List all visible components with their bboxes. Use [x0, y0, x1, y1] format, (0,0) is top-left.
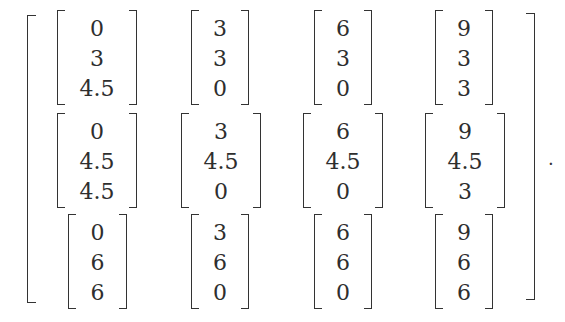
right-bracket [497, 113, 505, 208]
vector-entry: 6 [336, 248, 350, 278]
right-bracket [253, 113, 261, 208]
vector-entry: 6 [457, 248, 471, 278]
vector-entry: 3 [214, 117, 228, 147]
column-vector-r3c1: 0 6 6 [68, 214, 127, 309]
column-vector-r2c3: 6 4.5 0 [303, 113, 383, 208]
vector-entry: 4.5 [326, 147, 361, 177]
right-bracket [119, 214, 127, 309]
right-bracket [129, 10, 137, 105]
right-bracket [375, 113, 383, 208]
vector-entry: 4.5 [80, 147, 115, 177]
vector-entry: 6 [457, 278, 471, 308]
column-vector-r1c2: 3 3 0 [191, 10, 249, 105]
right-bracket [364, 10, 372, 105]
vector-entry: 0 [90, 117, 104, 147]
vector-entry: 4.5 [204, 147, 239, 177]
vector-entry: 3 [213, 218, 227, 248]
right-bracket [129, 113, 137, 208]
right-bracket [485, 214, 493, 309]
vector-entry: 3 [336, 44, 350, 74]
vector-entry: 4.5 [80, 177, 115, 207]
vector-entry: 0 [214, 177, 228, 207]
vector-entry: 0 [336, 278, 350, 308]
column-vector-r1c3: 6 3 0 [314, 10, 372, 105]
vector-entry: 9 [457, 14, 471, 44]
vector-entry: 0 [336, 177, 350, 207]
vector-entry: 6 [213, 248, 227, 278]
column-vector-r2c2: 3 4.5 0 [181, 113, 261, 208]
vector-entry: 0 [90, 14, 104, 44]
vector-entry: 6 [91, 278, 105, 308]
vector-entry: 3 [458, 177, 472, 207]
column-vector-r1c1: 0 3 4.5 [57, 10, 137, 105]
vector-entry: 3 [457, 44, 471, 74]
column-vector-r2c4: 9 4.5 3 [425, 113, 505, 208]
vector-entry: 6 [336, 117, 350, 147]
vector-entry: 0 [336, 74, 350, 104]
vector-entry: 0 [213, 278, 227, 308]
vector-entry: 3 [90, 44, 104, 74]
right-bracket [364, 214, 372, 309]
vector-entry: 0 [91, 218, 105, 248]
vector-entry: 9 [457, 218, 471, 248]
right-bracket [241, 214, 249, 309]
column-vector-r3c2: 3 6 0 [191, 214, 249, 309]
column-vector-r3c4: 9 6 6 [435, 214, 493, 309]
outer-left-bracket [27, 15, 36, 303]
vector-entry: 4.5 [448, 147, 483, 177]
vector-entry: 3 [457, 74, 471, 104]
vector-entry: 3 [213, 14, 227, 44]
vector-entry: 4.5 [80, 74, 115, 104]
trailing-period: . [548, 148, 554, 169]
vector-entry: 6 [336, 218, 350, 248]
column-vector-r1c4: 9 3 3 [435, 10, 493, 105]
right-bracket [241, 10, 249, 105]
column-vector-r3c3: 6 6 0 [314, 214, 372, 309]
column-vector-r2c1: 0 4.5 4.5 [57, 113, 137, 208]
vector-entry: 6 [336, 14, 350, 44]
outer-right-bracket [526, 13, 535, 300]
right-bracket [485, 10, 493, 105]
vector-entry: 0 [213, 74, 227, 104]
vector-entry: 6 [91, 248, 105, 278]
vector-entry: 3 [213, 44, 227, 74]
vector-entry: 9 [458, 117, 472, 147]
